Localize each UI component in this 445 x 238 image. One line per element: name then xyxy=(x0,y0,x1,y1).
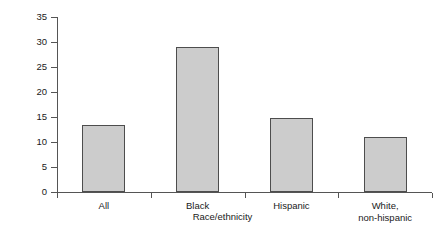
x-tick-mark xyxy=(432,193,433,198)
y-tick-mark xyxy=(51,92,57,93)
y-tick-label: 20 xyxy=(5,87,47,97)
x-axis-title: Race/ethnicity xyxy=(0,211,445,222)
y-tick-label: 35 xyxy=(5,12,47,22)
y-tick-label: 5 xyxy=(5,162,47,172)
x-tick-mark xyxy=(151,193,152,198)
x-tick-mark xyxy=(57,193,58,198)
y-tick-mark xyxy=(51,167,57,168)
x-category-label: All xyxy=(57,200,151,212)
y-tick-mark xyxy=(51,117,57,118)
y-tick-label: 25 xyxy=(5,62,47,72)
y-tick-mark xyxy=(51,42,57,43)
x-tick-mark xyxy=(338,193,339,198)
y-tick-label: 15 xyxy=(5,112,47,122)
y-tick-label: 30 xyxy=(5,37,47,47)
bar-chart: Annualized rate per 100,000 per year 051… xyxy=(0,0,445,238)
bar xyxy=(270,118,313,192)
x-tick-mark xyxy=(245,193,246,198)
x-category-label: Hispanic xyxy=(245,200,339,212)
y-tick-label: 0 xyxy=(5,187,47,197)
y-tick-mark xyxy=(51,142,57,143)
y-tick-mark xyxy=(51,17,57,18)
bar xyxy=(364,137,407,192)
bar xyxy=(82,125,125,193)
x-category-label: Black xyxy=(151,200,245,212)
bar xyxy=(176,47,219,192)
y-axis-line xyxy=(57,17,58,193)
y-tick-label: 10 xyxy=(5,137,47,147)
y-tick-mark xyxy=(51,67,57,68)
